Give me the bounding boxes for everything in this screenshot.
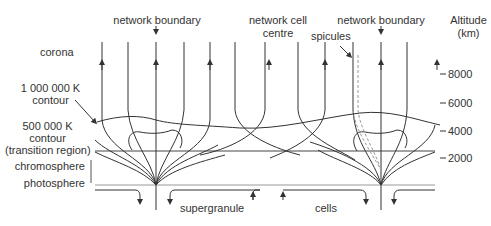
label-network-cell-1: network cell <box>243 14 313 26</box>
flow-left <box>95 190 140 202</box>
label-network-boundary-right: network boundary <box>336 14 426 26</box>
label-cells: cells <box>315 202 337 214</box>
label-photosphere: photosphere <box>0 177 85 189</box>
tick-6000: 6000 <box>448 97 472 109</box>
tick-8000: 8000 <box>448 68 472 80</box>
flow-right <box>394 190 435 202</box>
flow-sg-left <box>170 190 260 202</box>
label-altitude-unit: (km) <box>446 27 491 39</box>
flow-sg-right <box>253 190 260 200</box>
label-contour-1m-2: contour <box>18 94 83 106</box>
label-transition-region: (transition region) <box>5 144 90 156</box>
label-corona: corona <box>40 46 74 58</box>
flow-cells-left <box>283 190 366 202</box>
label-contour-500k-2: contour <box>5 132 90 144</box>
label-network-boundary-left: network boundary <box>112 14 202 26</box>
tick-4000: 4000 <box>448 125 472 137</box>
contour-1m <box>97 112 440 128</box>
label-contour-500k: 500 000 K <box>5 120 90 132</box>
label-altitude: Altitude <box>446 14 491 26</box>
label-contour-1m: 1 000 000 K <box>18 82 83 94</box>
tick-2000: 2000 <box>448 152 472 164</box>
label-chromosphere: chromosphere <box>0 160 85 172</box>
label-network-cell-2: centre <box>243 27 313 39</box>
label-supergranule: supergranule <box>180 202 244 214</box>
label-spicules: spicules <box>311 30 351 42</box>
